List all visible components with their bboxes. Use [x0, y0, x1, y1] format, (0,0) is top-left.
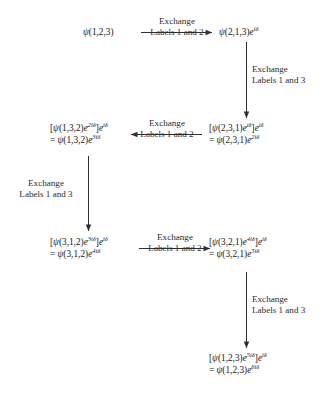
expression-line: ψ(1,2,3) — [83, 26, 114, 38]
arrow-label-line2: Labels 1 and 3 — [252, 75, 330, 86]
node-psi-213-e1: ψ(2,1,3)eiδ — [219, 26, 258, 38]
arrow-label-exchange-1-2-top: Exchange Labels 1 and 2 — [141, 16, 213, 39]
expression-line: = ψ(3,1,2)e4iδ — [50, 248, 108, 260]
node-psi-123-e6: [ψ(1,2,3)e5iδ]eiδ= ψ(1,2,3)e6iδ — [209, 352, 267, 376]
arrow-label-line1: Exchange — [252, 64, 330, 75]
arrow-label-line2: Labels 1 and 2 — [139, 243, 211, 254]
arrow-label-line2: Labels 1 and 3 — [8, 189, 84, 200]
arrow-label-exchange-1-3-right-upper: Exchange Labels 1 and 3 — [252, 64, 330, 87]
arrow-label-line1: Exchange — [252, 294, 330, 305]
expression-line: = ψ(1,3,2)e3iδ — [50, 134, 108, 146]
expression-line: = ψ(2,3,1)e2iδ — [209, 134, 264, 146]
expression-line: = ψ(1,2,3)e6iδ — [209, 364, 267, 376]
exchange-phase-diagram: ψ(1,2,3) ψ(2,1,3)eiδ [ψ(2,3,1)eiδ]eiδ= ψ… — [0, 0, 333, 400]
node-psi-312-e4: [ψ(3,1,2)e3iδ]eiδ= ψ(3,1,2)e4iδ — [50, 236, 108, 260]
arrow-label-line2: Labels 1 and 2 — [131, 129, 203, 140]
arrow-label-line2: Labels 1 and 2 — [141, 27, 213, 38]
node-psi-231-e2: [ψ(2,3,1)eiδ]eiδ= ψ(2,3,1)e2iδ — [209, 122, 264, 146]
arrow-label-exchange-1-2-lower: Exchange Labels 1 and 2 — [139, 232, 211, 255]
arrow-label-exchange-1-2-middle: Exchange Labels 1 and 2 — [131, 118, 203, 141]
node-psi-123: ψ(1,2,3) — [83, 26, 114, 38]
arrow-label-line1: Exchange — [141, 16, 213, 27]
arrow-label-line1: Exchange — [139, 232, 211, 243]
arrow-label-exchange-1-3-right-lower: Exchange Labels 1 and 3 — [252, 294, 330, 317]
expression-line: ψ(2,1,3)eiδ — [219, 26, 258, 38]
arrow-label-line1: Exchange — [8, 178, 84, 189]
node-psi-321-e5: [ψ(3,2,1)e4iδ]eiδ= ψ(3,2,1)e5iδ — [209, 236, 267, 260]
arrow-label-line2: Labels 1 and 3 — [252, 305, 330, 316]
arrow-label-exchange-1-3-left: Exchange Labels 1 and 3 — [8, 178, 84, 201]
node-psi-132-e3: [ψ(1,3,2)e2iδ]eiδ= ψ(1,3,2)e3iδ — [50, 122, 108, 146]
expression-line: = ψ(3,2,1)e5iδ — [209, 248, 267, 260]
arrow-label-line1: Exchange — [131, 118, 203, 129]
